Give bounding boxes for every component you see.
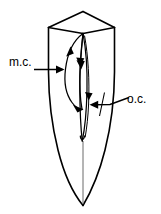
tooth-left-profile	[49, 28, 84, 206]
mesial-leader-arrowhead	[56, 66, 65, 74]
label-other-canal: o.c.	[127, 93, 146, 105]
tooth-canal-figure: m.c. o.c.	[0, 0, 161, 214]
other-canal-group	[80, 34, 89, 142]
crown-mesial-slope	[49, 12, 84, 28]
other-label-leader	[90, 98, 130, 109]
crown-facet-left	[49, 28, 84, 34]
crown-distal-slope	[83, 12, 115, 28]
flow-arrow-mesial-upper	[66, 47, 74, 57]
other-leader-arrowhead	[90, 101, 99, 109]
crown-facet-right	[83, 28, 115, 34]
label-mesial-canal: m.c.	[9, 56, 32, 68]
tooth-diagram-svg	[0, 0, 161, 214]
other-canal-wall-left	[80, 34, 83, 142]
